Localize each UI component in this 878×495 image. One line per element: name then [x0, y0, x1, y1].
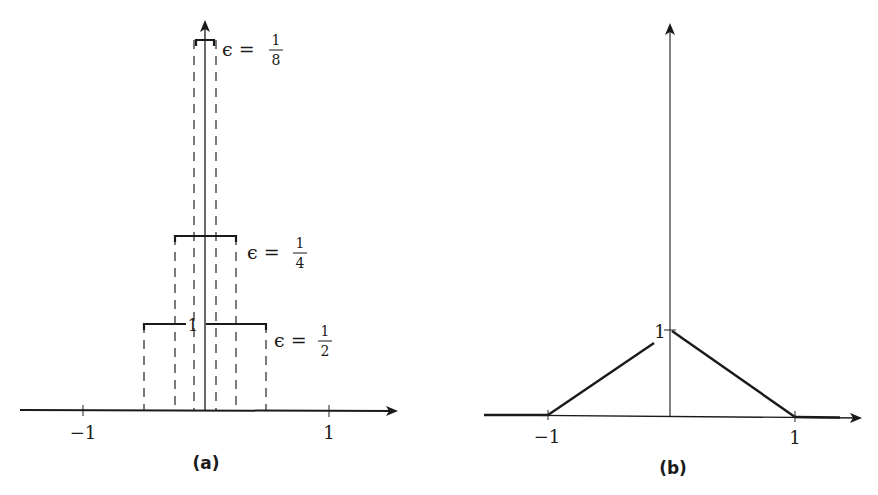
svg-text:8: 8: [272, 52, 281, 68]
x-tick-label-neg1-a: −1: [70, 422, 97, 443]
triangle-left: [548, 343, 654, 415]
y-tick-label-1-a: 1: [188, 315, 199, 335]
label-eps-1-4: ϵ = 1 4: [247, 235, 307, 271]
label-eps-1-8: ϵ = 1 8: [222, 32, 283, 68]
svg-text:4: 4: [296, 255, 305, 271]
svg-text:1: 1: [321, 323, 330, 339]
svg-text:ϵ =: ϵ =: [222, 38, 255, 60]
svg-text:ϵ =: ϵ =: [274, 329, 307, 351]
panel-b: 1 −1 1 (b): [484, 25, 860, 478]
svg-text:ϵ =: ϵ =: [247, 241, 280, 263]
svg-text:1: 1: [296, 235, 305, 251]
panel-a: 1 ϵ = 1 8 ϵ = 1 4 ϵ = 1 2 −1 1 (a): [20, 22, 396, 473]
triangle-right: [672, 331, 795, 417]
caption-a: (a): [192, 453, 219, 473]
y-tick-label-1-b: 1: [654, 321, 665, 342]
svg-text:2: 2: [321, 343, 330, 359]
figure: 1 ϵ = 1 8 ϵ = 1 4 ϵ = 1 2 −1 1 (a): [0, 0, 878, 495]
svg-text:1: 1: [272, 32, 281, 48]
x-axis-a: [20, 410, 396, 411]
caption-b: (b): [659, 458, 687, 478]
x-tick-label-1-a: 1: [323, 422, 334, 443]
label-eps-1-2: ϵ = 1 2: [274, 323, 332, 359]
x-tick-label-1-b: 1: [789, 427, 800, 448]
x-tick-label-neg1-b: −1: [534, 426, 561, 447]
